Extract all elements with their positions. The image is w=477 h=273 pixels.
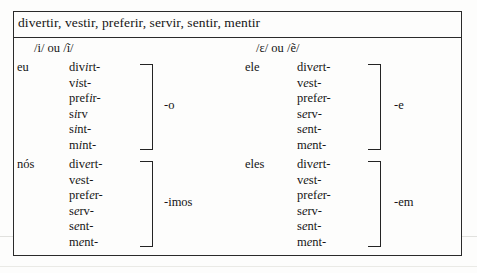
verb-stem: mint- xyxy=(69,138,141,154)
stem-vowel: e xyxy=(89,188,95,202)
stem-vowel: e xyxy=(75,173,81,187)
verb-stem: prefer- xyxy=(69,188,141,204)
verb-stem: serv- xyxy=(297,204,369,220)
stem-vowel: e xyxy=(307,138,313,152)
pronoun-label: eles xyxy=(245,157,264,172)
stem-vowel: e xyxy=(302,219,308,233)
stem-vowel: i xyxy=(89,91,92,105)
verb-stem: ment- xyxy=(297,138,369,154)
stem-list: divert-vest-prefer-serv-sent-ment- xyxy=(297,157,369,250)
stem-vowel: e xyxy=(303,76,309,90)
verb-stem: divirt- xyxy=(69,60,141,76)
stem-list: divert-vest-prefer-serv-sent-ment- xyxy=(69,157,141,250)
stem-vowel: e xyxy=(317,91,323,105)
stem-vowel: i xyxy=(79,138,82,152)
verb-stem: vest- xyxy=(297,76,369,92)
stem-vowel: e xyxy=(302,204,308,218)
stem-vowel: e xyxy=(313,157,319,171)
verb-stem: sent- xyxy=(297,122,369,138)
pronoun-label: eu xyxy=(17,60,29,75)
stem-vowel: e xyxy=(74,204,80,218)
suffix-label: -em xyxy=(394,195,413,210)
stem-vowel: e xyxy=(302,122,308,136)
suffix-label: -o xyxy=(164,98,174,113)
stem-vowel: e xyxy=(313,60,319,74)
grouping-bracket-icon xyxy=(368,64,381,150)
pronoun-label: nós xyxy=(17,157,34,172)
stem-list: divirt-vist-prefir-sirvsint-mint- xyxy=(69,60,141,153)
stem-vowel: i xyxy=(75,76,78,90)
verb-stem: divert- xyxy=(69,157,141,173)
stem-vowel: e xyxy=(303,173,309,187)
verb-stem: ment- xyxy=(297,235,369,251)
verb-stem: sent- xyxy=(69,219,141,235)
grouping-bracket-icon xyxy=(140,64,153,150)
verb-stem: sirv xyxy=(69,107,141,123)
stem-vowel: e xyxy=(307,235,313,249)
phonetic-header-row: /i/ ou /ĩ/ /ɛ/ ou /ẽ/ xyxy=(14,38,461,60)
scanned-page: divertir, vestir, preferir, servir, sent… xyxy=(0,0,477,273)
verb-stem: sent- xyxy=(297,219,369,235)
stem-vowel: e xyxy=(317,188,323,202)
stem-vowel: i xyxy=(85,60,88,74)
verb-stem: prefer- xyxy=(297,188,369,204)
verb-stem: sint- xyxy=(69,122,141,138)
grouping-bracket-icon xyxy=(368,161,381,247)
stem-vowel: i xyxy=(74,107,77,121)
scan-artifact-line-lower xyxy=(0,266,477,267)
verb-list-heading: divertir, vestir, preferir, servir, sent… xyxy=(18,15,260,31)
stem-vowel: i xyxy=(74,122,77,136)
verb-stem: divert- xyxy=(297,60,369,76)
verb-stem: prefer- xyxy=(297,91,369,107)
stem-vowel: e xyxy=(79,235,85,249)
phonetic-label-right: /ɛ/ ou /ẽ/ xyxy=(256,41,299,56)
verb-stem: vest- xyxy=(297,173,369,189)
verb-stem: serv- xyxy=(297,107,369,123)
conjugation-table: divertir, vestir, preferir, servir, sent… xyxy=(13,11,462,256)
stem-vowel: e xyxy=(85,157,91,171)
verb-stem: divert- xyxy=(297,157,369,173)
stem-vowel: e xyxy=(302,107,308,121)
verb-stem: serv- xyxy=(69,204,141,220)
verb-stem: vest- xyxy=(69,173,141,189)
grouping-bracket-icon xyxy=(140,161,153,247)
verb-stem: vist- xyxy=(69,76,141,92)
verb-stem: prefir- xyxy=(69,91,141,107)
table-header-row: divertir, vestir, preferir, servir, sent… xyxy=(14,12,461,38)
pronoun-label: ele xyxy=(245,60,260,75)
suffix-label: -e xyxy=(394,98,404,113)
stem-vowel: e xyxy=(74,219,80,233)
stem-list: divert-vest-prefer-serv-sent-ment- xyxy=(297,60,369,153)
suffix-label: -imos xyxy=(164,195,192,210)
phonetic-label-left: /i/ ou /ĩ/ xyxy=(34,41,74,56)
verb-stem: ment- xyxy=(69,235,141,251)
